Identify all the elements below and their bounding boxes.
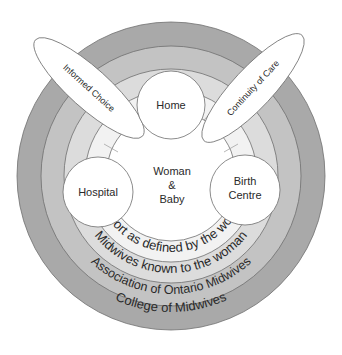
place-birth-centre: Birth Centre (210, 155, 280, 225)
center-label-ampersand: & (168, 179, 176, 191)
place-home: Home (137, 71, 205, 139)
midwifery-model-diagram: Support as defined by the woman Midwives… (0, 0, 342, 355)
place-label-birth: Birth (234, 175, 257, 187)
center-label-woman: Woman (153, 165, 191, 177)
center-label-baby: Baby (159, 193, 185, 205)
place-label-home: Home (156, 99, 185, 111)
place-label-centre: Centre (228, 189, 261, 201)
place-label-hospital: Hospital (78, 186, 118, 198)
place-hospital: Hospital (63, 157, 133, 227)
